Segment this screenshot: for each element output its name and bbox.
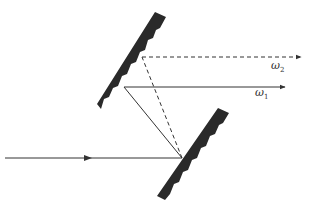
ray-omega2 [142, 57, 301, 158]
grating-diagram: ω2 ω1 [0, 0, 316, 214]
diagram-svg: ω2 ω1 [0, 0, 316, 214]
incident-ray [5, 155, 182, 161]
upper-grating [97, 12, 166, 109]
omega2-label: ω2 [271, 59, 284, 74]
arrow-icon [84, 155, 92, 161]
omega1-label: ω1 [255, 86, 268, 101]
